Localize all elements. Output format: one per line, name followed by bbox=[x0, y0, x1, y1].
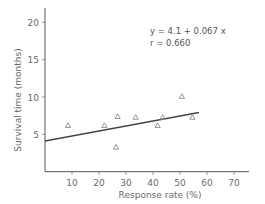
y-axis-label: Survival time (months) bbox=[13, 48, 23, 151]
x-tick-label: 10 bbox=[66, 178, 78, 188]
data-point bbox=[179, 94, 184, 99]
x-tick-label: 70 bbox=[228, 178, 240, 188]
y-tick-label: 5 bbox=[33, 130, 39, 140]
data-point bbox=[190, 115, 195, 120]
x-ticks: 10203040506070 bbox=[66, 172, 240, 188]
x-tick-label: 40 bbox=[147, 178, 159, 188]
x-tick-label: 50 bbox=[174, 178, 186, 188]
data-point bbox=[102, 123, 107, 128]
regression-line bbox=[45, 113, 199, 142]
data-points bbox=[65, 94, 195, 149]
regression-equation: y = 4.1 + 0.067 x bbox=[150, 26, 226, 36]
y-tick-label: 20 bbox=[28, 18, 40, 28]
y-tick-label: 15 bbox=[28, 55, 39, 65]
y-tick-label: 10 bbox=[28, 93, 40, 103]
y-ticks: 5101520 bbox=[28, 18, 45, 140]
data-point bbox=[133, 115, 138, 120]
data-point bbox=[65, 123, 70, 128]
x-tick-label: 20 bbox=[93, 178, 105, 188]
data-point bbox=[113, 144, 118, 149]
data-point bbox=[155, 123, 160, 128]
correlation-coefficient: r = 0.660 bbox=[150, 38, 190, 48]
data-point bbox=[115, 114, 120, 119]
scatter-chart: 10203040506070 5101520 y = 4.1 + 0.067 x… bbox=[0, 0, 265, 204]
x-axis-label: Response rate (%) bbox=[119, 190, 202, 200]
x-tick-label: 30 bbox=[120, 178, 132, 188]
x-tick-label: 60 bbox=[201, 178, 213, 188]
